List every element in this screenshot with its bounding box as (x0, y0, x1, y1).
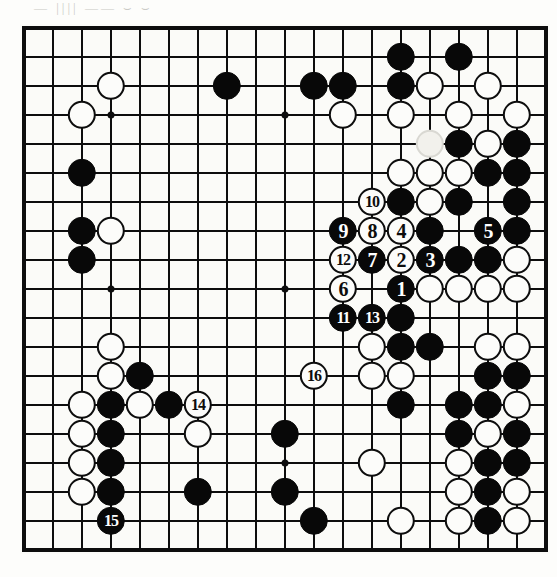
white-stone-17-17[interactable] (503, 507, 531, 535)
move-stone-10-12-6[interactable]: 10 (358, 188, 386, 216)
black-stone-4-12[interactable] (126, 362, 154, 390)
black-stone-14-11[interactable] (416, 333, 444, 361)
white-stone-14-5[interactable] (416, 159, 444, 187)
white-stone-12-15[interactable] (358, 449, 386, 477)
black-stone-16-5[interactable] (474, 159, 502, 187)
white-stone-13-12[interactable] (387, 362, 415, 390)
move-stone-1-13-9[interactable]: 1 (387, 275, 415, 303)
white-stone-15-16[interactable] (445, 478, 473, 506)
white-stone-15-17[interactable] (445, 507, 473, 535)
white-stone-17-3[interactable] (503, 101, 531, 129)
move-stone-11-11-10[interactable]: 11 (329, 304, 357, 332)
black-stone-10-17[interactable] (300, 507, 328, 535)
black-stone-10-2[interactable] (300, 72, 328, 100)
white-stone-14-2[interactable] (416, 72, 444, 100)
white-stone-14-6[interactable] (416, 188, 444, 216)
white-stone-17-13[interactable] (503, 391, 531, 419)
white-stone-17-9[interactable] (503, 275, 531, 303)
white-stone-6-14[interactable] (184, 420, 212, 448)
move-stone-13-12-10[interactable]: 13 (358, 304, 386, 332)
move-stone-14-6-13[interactable]: 14 (184, 391, 212, 419)
white-stone-12-12[interactable] (358, 362, 386, 390)
move-stone-5-16-7[interactable]: 5 (474, 217, 502, 245)
black-stone-5-13[interactable] (155, 391, 183, 419)
white-stone-13-3[interactable] (387, 101, 415, 129)
black-stone-16-13[interactable] (474, 391, 502, 419)
white-stone-4-13[interactable] (126, 391, 154, 419)
black-stone-3-13[interactable] (97, 391, 125, 419)
white-stone-2-13[interactable] (68, 391, 96, 419)
black-stone-16-17[interactable] (474, 507, 502, 535)
black-stone-17-5[interactable] (503, 159, 531, 187)
black-stone-3-14[interactable] (97, 420, 125, 448)
black-stone-16-8[interactable] (474, 246, 502, 274)
white-stone-16-4[interactable] (474, 130, 502, 158)
white-stone-11-3[interactable] (329, 101, 357, 129)
black-stone-17-12[interactable] (503, 362, 531, 390)
white-stone-3-7[interactable] (97, 217, 125, 245)
black-stone-15-14[interactable] (445, 420, 473, 448)
move-stone-15-3-17[interactable]: 15 (97, 507, 125, 535)
white-stone-2-14[interactable] (68, 420, 96, 448)
white-stone-17-16[interactable] (503, 478, 531, 506)
black-stone-3-15[interactable] (97, 449, 125, 477)
black-stone-7-2[interactable] (213, 72, 241, 100)
black-stone-9-14[interactable] (271, 420, 299, 448)
black-stone-15-8[interactable] (445, 246, 473, 274)
white-stone-2-3[interactable] (68, 101, 96, 129)
white-stone-12-11[interactable] (358, 333, 386, 361)
black-stone-9-16[interactable] (271, 478, 299, 506)
black-stone-17-4[interactable] (503, 130, 531, 158)
black-stone-2-5[interactable] (68, 159, 96, 187)
white-stone-13-5[interactable] (387, 159, 415, 187)
white-stone-16-9[interactable] (474, 275, 502, 303)
move-stone-12-11-8[interactable]: 12 (329, 246, 357, 274)
black-stone-11-2[interactable] (329, 72, 357, 100)
go-board-grid[interactable]: 10984512723611113161415 (20, 24, 550, 554)
white-stone-2-16[interactable] (68, 478, 96, 506)
move-stone-6-11-9[interactable]: 6 (329, 275, 357, 303)
black-stone-2-8[interactable] (68, 246, 96, 274)
black-stone-17-14[interactable] (503, 420, 531, 448)
black-stone-17-7[interactable] (503, 217, 531, 245)
white-stone-16-14[interactable] (474, 420, 502, 448)
white-stone-3-12[interactable] (97, 362, 125, 390)
white-stone-14-9[interactable] (416, 275, 444, 303)
black-stone-13-2[interactable] (387, 72, 415, 100)
move-stone-8-12-7[interactable]: 8 (358, 217, 386, 245)
white-stone-15-9[interactable] (445, 275, 473, 303)
black-stone-13-10[interactable] (387, 304, 415, 332)
black-stone-13-11[interactable] (387, 333, 415, 361)
black-stone-15-6[interactable] (445, 188, 473, 216)
black-stone-15-13[interactable] (445, 391, 473, 419)
white-stone-16-2[interactable] (474, 72, 502, 100)
white-stone-3-2[interactable] (97, 72, 125, 100)
white-stone-17-11[interactable] (503, 333, 531, 361)
white-stone-15-5[interactable] (445, 159, 473, 187)
black-stone-16-15[interactable] (474, 449, 502, 477)
white-stone-17-8[interactable] (503, 246, 531, 274)
move-stone-9-11-7[interactable]: 9 (329, 217, 357, 245)
faded-stone-14-4[interactable] (416, 130, 444, 158)
black-stone-17-15[interactable] (503, 449, 531, 477)
white-stone-15-3[interactable] (445, 101, 473, 129)
white-stone-2-15[interactable] (68, 449, 96, 477)
black-stone-13-13[interactable] (387, 391, 415, 419)
white-stone-16-11[interactable] (474, 333, 502, 361)
black-stone-16-16[interactable] (474, 478, 502, 506)
black-stone-2-7[interactable] (68, 217, 96, 245)
black-stone-6-16[interactable] (184, 478, 212, 506)
white-stone-13-17[interactable] (387, 507, 415, 535)
black-stone-14-7[interactable] (416, 217, 444, 245)
go-board-container[interactable]: 10984512723611113161415 (0, 0, 557, 577)
black-stone-15-1[interactable] (445, 43, 473, 71)
white-stone-15-15[interactable] (445, 449, 473, 477)
white-stone-3-11[interactable] (97, 333, 125, 361)
black-stone-16-12[interactable] (474, 362, 502, 390)
move-stone-16-10-12[interactable]: 16 (300, 362, 328, 390)
move-stone-4-13-7[interactable]: 4 (387, 217, 415, 245)
black-stone-17-6[interactable] (503, 188, 531, 216)
black-stone-13-1[interactable] (387, 43, 415, 71)
move-stone-2-13-8[interactable]: 2 (387, 246, 415, 274)
move-stone-7-12-8[interactable]: 7 (358, 246, 386, 274)
